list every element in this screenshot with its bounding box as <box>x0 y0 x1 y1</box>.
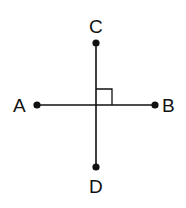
label-a: A <box>13 95 26 116</box>
right-angle-marker <box>96 89 112 105</box>
label-d: D <box>89 176 103 197</box>
label-b: B <box>162 95 175 116</box>
point-d <box>92 163 99 170</box>
point-a <box>33 101 40 108</box>
perpendicular-lines-diagram: A B C D <box>0 0 186 208</box>
label-c: C <box>89 16 103 37</box>
point-c <box>92 39 99 46</box>
point-b <box>151 101 158 108</box>
